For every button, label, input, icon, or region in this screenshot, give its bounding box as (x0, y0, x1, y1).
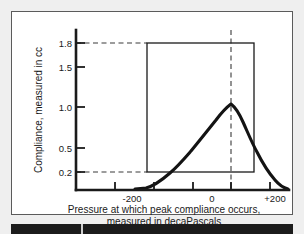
x-axis-title-line-1: Pressure at which peak compliance occurs… (68, 204, 260, 215)
tympanogram-chart: 1.8 1.5 1.0 0.5 0.2 -200 0 +200 Complian… (12, 12, 294, 232)
y-tick-label-0.5: 0.5 (59, 143, 72, 154)
y-tick-label-1.8: 1.8 (59, 38, 72, 49)
bottom-toolbar-strip (11, 224, 293, 234)
x-tick-label-200: +200 (264, 193, 285, 204)
x-tick-label--200: -200 (122, 193, 141, 204)
y-tick-label-1.5: 1.5 (59, 62, 72, 73)
x-tick-label-0: 0 (209, 193, 214, 204)
strip-divider (81, 224, 83, 234)
y-axis-title: Compliance, measured in cc (33, 47, 44, 173)
figure-card: 1.8 1.5 1.0 0.5 0.2 -200 0 +200 Complian… (11, 11, 293, 215)
normal-range-box (147, 43, 254, 172)
chart-plot-area: 1.8 1.5 1.0 0.5 0.2 -200 0 +200 Complian… (12, 12, 294, 232)
y-tick-label-1.0: 1.0 (59, 102, 72, 113)
y-tick-label-0.2: 0.2 (59, 167, 72, 178)
tympanogram-curve (135, 104, 288, 189)
